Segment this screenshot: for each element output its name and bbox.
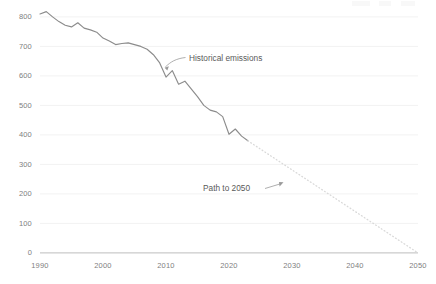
x-tick-2000: 2000 (86, 262, 120, 270)
x-tick-1990: 1990 (23, 262, 57, 270)
annotation-historical-emissions: Historical emissions (189, 54, 262, 62)
x-tick-2030: 2030 (275, 262, 309, 270)
path-to-2050-projection-line (248, 141, 418, 253)
chart-canvas (0, 0, 436, 284)
annotation-path-to-2050: Path to 2050 (203, 184, 250, 192)
path-to-2050-leader-line (265, 184, 282, 189)
path-to-2050-leader-arrowhead (279, 182, 284, 186)
y-tick-300: 300 (6, 161, 32, 169)
y-tick-500: 500 (6, 102, 32, 110)
y-tick-0: 0 (6, 249, 32, 257)
x-tick-2010: 2010 (149, 262, 183, 270)
emissions-line-chart: 800 700 600 500 400 300 200 100 0 1990 2… (0, 0, 436, 284)
y-tick-100: 100 (6, 220, 32, 228)
historical-emissions-leader-line (165, 58, 185, 68)
x-tick-2050: 2050 (401, 262, 435, 270)
y-tick-700: 700 (6, 43, 32, 51)
y-tick-600: 600 (6, 72, 32, 80)
x-tick-2040: 2040 (338, 262, 372, 270)
y-tick-400: 400 (6, 131, 32, 139)
y-tick-800: 800 (6, 13, 32, 21)
x-tick-2020: 2020 (212, 262, 246, 270)
y-tick-200: 200 (6, 190, 32, 198)
